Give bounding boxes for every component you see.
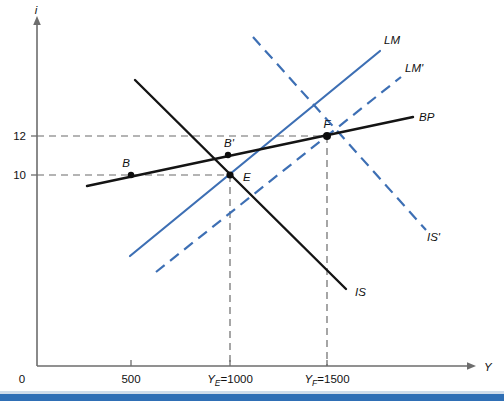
curve-is (135, 80, 346, 289)
yf-value: =1500 (317, 373, 349, 385)
y-tick-label-12: 12 (13, 130, 26, 142)
plot-canvas: i Y 12 10 0 500 YE=1000 YF=1500 LM LM' I… (0, 0, 504, 401)
curve-lm (130, 51, 380, 256)
y-axis-label: i (35, 4, 38, 16)
point-label-e: E (243, 171, 251, 183)
is-lm-bp-figure: i Y 12 10 0 500 YE=1000 YF=1500 LM LM' I… (0, 0, 504, 401)
point-label-f: F (323, 118, 331, 130)
x-tick-label-yf: YF=1500 (304, 373, 349, 388)
curve-label-lm-prime: LM' (405, 62, 424, 74)
curve-label-lm: LM (384, 34, 400, 46)
x-tick-label-ye: YE=1000 (207, 373, 253, 388)
point-bprime-dot (225, 152, 231, 158)
curve-label-bp: BP (419, 111, 435, 123)
curve-lm-prime (156, 77, 401, 272)
y-axis-arrow (33, 16, 41, 25)
x-tick-label-500: 500 (121, 373, 140, 385)
point-label-b: B (122, 157, 130, 169)
curve-label-is-prime: IS' (427, 231, 441, 243)
point-b-dot (128, 172, 134, 178)
origin-label: 0 (19, 373, 25, 385)
ye-value: =1000 (221, 373, 253, 385)
point-label-bprime: B' (224, 137, 235, 149)
y-tick-label-10: 10 (13, 169, 26, 181)
point-f-dot (323, 132, 331, 140)
x-axis-arrow (467, 362, 476, 370)
x-axis-label: Y (484, 361, 493, 373)
curve-label-is: IS (355, 286, 366, 298)
point-e-dot (226, 171, 233, 178)
footer-bar (0, 394, 504, 401)
